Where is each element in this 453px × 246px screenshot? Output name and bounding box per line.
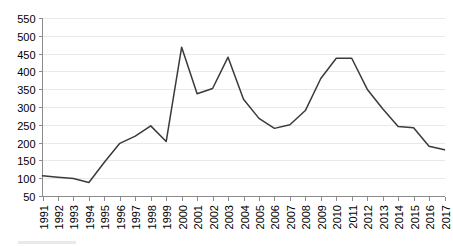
x-axis-tick-label: 1996	[115, 205, 127, 229]
y-axis-tick-label: 550	[17, 13, 35, 25]
y-axis-tick-label: 100	[17, 173, 35, 185]
x-axis-tick-label: 2001	[192, 205, 204, 229]
x-axis-tick-label: 2017	[440, 205, 452, 229]
x-axis-tick-label: 1991	[38, 205, 50, 229]
y-axis-tick-label: 300	[17, 102, 35, 114]
x-axis-tick-label: 2008	[300, 205, 312, 229]
x-axis-tick-label: 1994	[84, 205, 96, 229]
x-axis-tick-label: 2016	[424, 205, 436, 229]
x-axis-tick-label: 1999	[161, 205, 173, 229]
x-axis-tick-label: 2010	[331, 205, 343, 229]
y-axis-tick-label: 200	[17, 138, 35, 150]
y-axis-tick-label: 50	[23, 191, 35, 203]
x-axis-tick-label: 1992	[53, 205, 65, 229]
x-axis-tick-label: 2000	[177, 205, 189, 229]
y-axis-tick-label: 350	[17, 84, 35, 96]
x-axis-tick-label: 2002	[208, 205, 220, 229]
x-axis-tick-labels: 1991199219931994199519961997199819992000…	[38, 205, 452, 229]
y-axis-tick-label: 400	[17, 66, 35, 78]
x-axis-tick-label: 2006	[269, 205, 281, 229]
x-axis-tick-label: 2015	[409, 205, 421, 229]
x-axis-tick-label: 2009	[316, 205, 328, 229]
x-axis-tick-label: 2013	[378, 205, 390, 229]
x-axis-tick-label: 1995	[99, 205, 111, 229]
y-axis-tick-label: 450	[17, 49, 35, 61]
x-axis-tick-label: 1993	[68, 205, 80, 229]
x-axis-tick-label: 2014	[393, 205, 405, 229]
page-artifact	[18, 241, 76, 244]
y-axis-tick-labels: 55050045040035030025020015010050	[17, 13, 35, 203]
x-axis-tick-label: 2003	[223, 205, 235, 229]
y-axis-tick-label: 250	[17, 120, 35, 132]
chart-canvas: 55050045040035030025020015010050 1991199…	[0, 0, 453, 246]
x-axis-tick-label: 1997	[130, 205, 142, 229]
x-axis-tick-label: 2012	[362, 205, 374, 229]
x-axis-tick-label: 2011	[347, 205, 359, 229]
x-axis-tick-label: 2007	[285, 205, 297, 229]
x-axis-tick-label: 2004	[239, 205, 251, 229]
x-axis-tick-label: 2005	[254, 205, 266, 229]
y-axis-tick-label: 500	[17, 31, 35, 43]
line-chart: 55050045040035030025020015010050 1991199…	[0, 0, 453, 246]
x-axis-tick-label: 1998	[146, 205, 158, 229]
y-axis-tick-label: 150	[17, 155, 35, 167]
